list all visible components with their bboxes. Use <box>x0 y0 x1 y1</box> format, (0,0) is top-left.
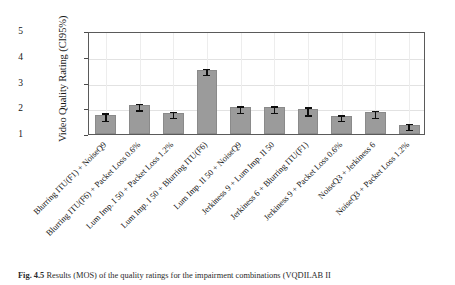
error-bar-cap-bottom <box>237 113 244 114</box>
caption-text: Results (MOS) of the quality ratings for… <box>46 271 330 280</box>
error-bar-cap-top <box>305 107 312 108</box>
error-bar-cap-top <box>170 112 177 113</box>
x-tick-label: NoiseQ3 + Jerkiness 6 <box>230 140 378 285</box>
error-bar-cap-bottom <box>406 130 413 131</box>
error-bar-cap-top <box>338 115 345 116</box>
x-tick-label: Blurring ITU(F1) + NoiseQ9 <box>0 140 108 285</box>
error-bar-cap-bottom <box>203 75 210 76</box>
error-bar-cap-top <box>203 69 210 70</box>
gridline-vertical <box>409 33 410 134</box>
caption-label: Fig. 4.5 <box>18 271 44 280</box>
y-tick-label: 1 <box>3 130 23 139</box>
error-bar-cap-top <box>271 106 278 107</box>
plot-area <box>88 32 425 135</box>
x-tick-label: Jerkiness 6 + Blurring ITU(F1) <box>162 140 310 285</box>
error-bar-cap-top <box>102 113 109 114</box>
x-tick-label: Jerkiness 9 + Packet Loss 0.6% <box>196 140 344 285</box>
x-tick-label: Lum Imp. I 50 + Packet Loss 1.2% <box>28 140 176 285</box>
figure-caption: Fig. 4.5 Results (MOS) of the quality ra… <box>18 271 446 281</box>
error-bar-cap-bottom <box>372 118 379 119</box>
y-tick-label: 5 <box>3 27 23 36</box>
error-bar-cap-top <box>136 104 143 105</box>
error-bar-cap-top <box>237 106 244 107</box>
x-tick-label: Jerkiness 9 + Lum Imp. II 50 <box>129 140 277 285</box>
error-bar-cap-top <box>406 124 413 125</box>
bar <box>197 70 218 134</box>
y-tick-mark <box>84 135 88 136</box>
y-tick-label: 4 <box>3 53 23 62</box>
error-bar-cap-bottom <box>102 121 109 122</box>
error-bar-cap-bottom <box>136 110 143 111</box>
figure-container: Video Quality Rating (CI95%) 12345 Blurr… <box>0 0 455 285</box>
x-tick-label: Lum Imp. I 50 + Blurring ITU(F6) <box>61 140 209 285</box>
y-axis-title: Video Quality Rating (CI95%) <box>56 18 70 142</box>
error-bar-cap-top <box>372 111 379 112</box>
error-bar-cap-bottom <box>170 118 177 119</box>
error-bar-cap-bottom <box>338 121 345 122</box>
y-tick-label: 2 <box>3 104 23 113</box>
x-tick-label: Lum Imp. II 50 + NoiseQ9 <box>95 140 243 285</box>
x-tick-label: NoiseQ3 + Packet Loss 1.2% <box>264 140 412 285</box>
y-tick-label: 3 <box>3 79 23 88</box>
error-bar-cap-bottom <box>305 115 312 116</box>
x-tick-label: Blurring ITU(F6) + Packet Loss 0.6% <box>0 140 142 285</box>
error-bar-cap-bottom <box>271 113 278 114</box>
